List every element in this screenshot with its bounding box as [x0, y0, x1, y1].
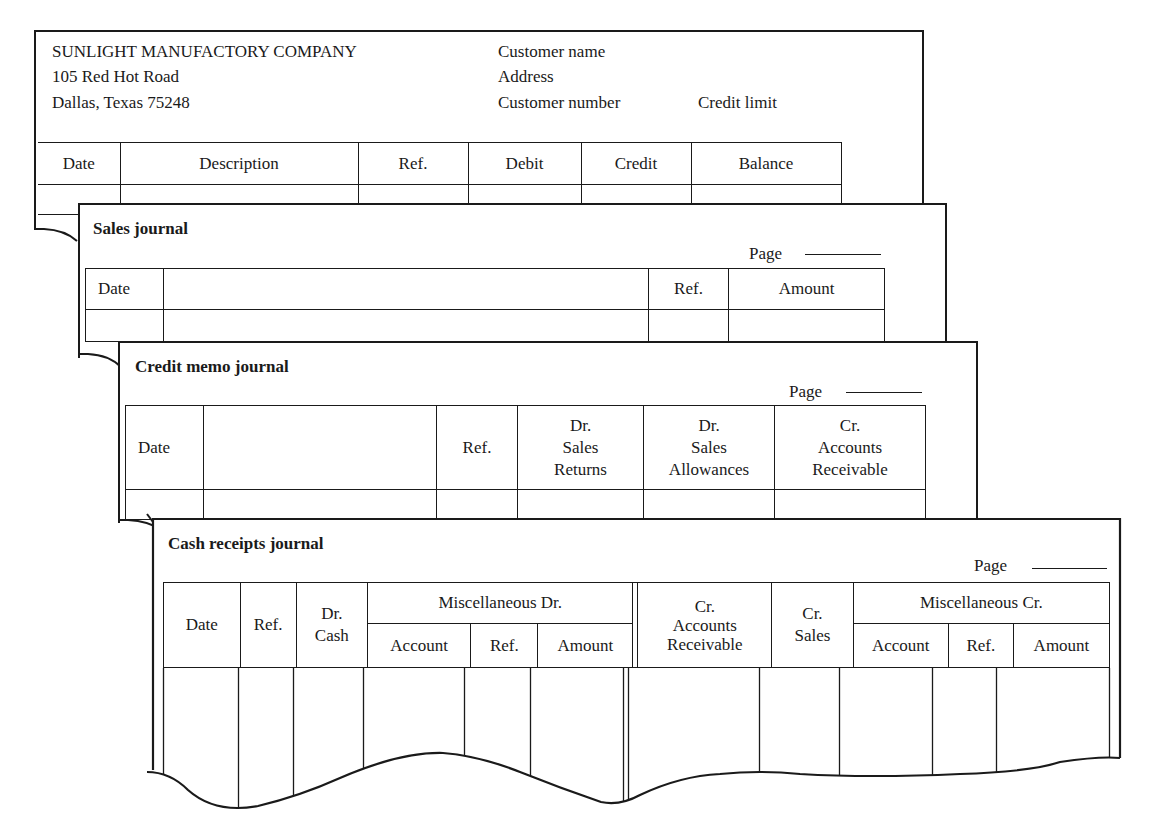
cash-receipts-entry-area[interactable] [164, 668, 1109, 768]
